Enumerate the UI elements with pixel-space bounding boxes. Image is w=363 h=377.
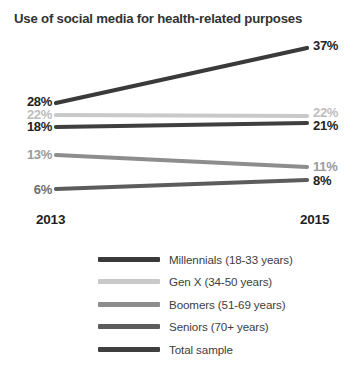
series-line-total-sample (56, 123, 307, 127)
data-label-boomers-2015: 11% (313, 159, 337, 174)
data-label-boomers-2013: 13% (6, 147, 52, 162)
data-label-seniors-2013: 6% (6, 182, 52, 197)
legend-swatch-icon (98, 279, 160, 284)
legend-item-boomers: Boomers (51-69 years) (98, 293, 348, 316)
legend-item-millennials: Millennials (18-33 years) (98, 248, 348, 271)
x-axis-tick-2015: 2015 (300, 212, 329, 227)
legend-swatch-icon (98, 347, 160, 352)
chart-figure: Use of social media for health-related p… (0, 0, 363, 377)
data-label-millennials-2015: 37% (313, 38, 338, 53)
legend-swatch-icon (98, 324, 160, 329)
series-line-genx (56, 115, 307, 116)
plot-area: 28% 37% 22% 22% 18% 21% 13% 11% 6% 8% (0, 28, 363, 208)
series-line-boomers (56, 155, 307, 167)
chart-legend: Millennials (18-33 years) Gen X (34-50 y… (98, 248, 348, 361)
legend-item-genx: Gen X (34-50 years) (98, 271, 348, 294)
series-line-millennials (56, 48, 307, 103)
legend-item-seniors: Seniors (70+ years) (98, 316, 348, 339)
data-label-total-sample-2013: 18% (6, 119, 52, 134)
data-label-seniors-2015: 8% (313, 173, 331, 188)
line-chart-svg (0, 28, 363, 208)
legend-item-total-sample: Total sample (98, 338, 348, 361)
page-title: Use of social media for health-related p… (14, 11, 302, 26)
legend-label: Total sample (169, 343, 233, 356)
data-label-total-sample-2015: 21% (313, 118, 338, 133)
legend-label: Seniors (70+ years) (169, 320, 269, 333)
legend-swatch-icon (98, 257, 160, 262)
legend-label: Gen X (34-50 years) (169, 275, 272, 288)
legend-label: Boomers (51-69 years) (169, 298, 285, 311)
series-line-seniors (56, 180, 307, 189)
legend-label: Millennials (18-33 years) (169, 253, 293, 266)
legend-swatch-icon (98, 302, 160, 307)
x-axis-tick-2013: 2013 (36, 212, 65, 227)
